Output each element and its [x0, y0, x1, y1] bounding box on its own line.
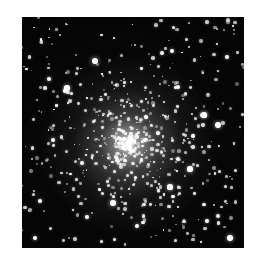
cluster-core-glow [22, 17, 244, 248]
star [68, 237, 69, 238]
star [193, 192, 195, 194]
star [182, 133, 185, 136]
star [79, 182, 82, 185]
star [191, 238, 194, 241]
star [118, 141, 121, 144]
star [54, 154, 56, 156]
star [108, 110, 110, 112]
star [94, 162, 98, 166]
star [95, 111, 97, 113]
star [32, 118, 35, 121]
star [94, 119, 97, 122]
star [233, 29, 234, 30]
star [117, 207, 120, 210]
star [178, 192, 181, 195]
star [68, 99, 72, 103]
star [69, 116, 71, 118]
star [174, 109, 177, 112]
star [131, 162, 133, 164]
star [150, 147, 154, 151]
star [103, 137, 106, 140]
star [151, 101, 154, 104]
star [50, 166, 52, 168]
star [120, 196, 122, 198]
star [123, 146, 125, 148]
star [227, 235, 233, 241]
star [162, 154, 165, 157]
star [154, 23, 158, 27]
star [224, 185, 227, 188]
star [150, 236, 152, 238]
star [51, 127, 55, 131]
star [49, 174, 53, 178]
star [176, 105, 179, 108]
star [36, 163, 38, 165]
star [101, 126, 104, 129]
star [208, 159, 210, 161]
star [98, 188, 100, 190]
star [167, 184, 172, 189]
star [162, 161, 164, 163]
star [59, 34, 61, 36]
star [182, 142, 184, 144]
star [149, 171, 150, 172]
star [99, 98, 102, 101]
star [96, 138, 98, 140]
star [28, 208, 32, 212]
star [167, 173, 170, 176]
star [214, 78, 217, 81]
star [124, 134, 126, 136]
star [104, 93, 106, 95]
star [55, 104, 58, 107]
star [231, 178, 233, 180]
star [148, 53, 150, 55]
star [118, 123, 121, 126]
star [215, 122, 221, 128]
star [38, 110, 40, 112]
star [98, 110, 101, 113]
star [206, 93, 210, 97]
star [142, 109, 145, 112]
star [106, 180, 109, 183]
star [171, 149, 175, 153]
star [212, 166, 216, 170]
star [168, 229, 171, 232]
star [164, 47, 167, 50]
star [182, 225, 186, 229]
star [175, 28, 178, 31]
star [229, 216, 233, 220]
star [236, 51, 239, 54]
star [212, 53, 216, 57]
star [182, 220, 186, 224]
star [72, 187, 75, 190]
star [149, 203, 152, 206]
star [187, 166, 192, 171]
star [113, 37, 115, 39]
star [73, 237, 77, 241]
star [156, 131, 160, 135]
star [111, 186, 114, 189]
star [128, 188, 130, 190]
star [140, 45, 143, 48]
star [76, 213, 79, 216]
star [31, 146, 34, 149]
star [217, 108, 219, 110]
star [216, 28, 218, 30]
star [144, 152, 145, 153]
star [40, 40, 43, 43]
cluster-image [22, 17, 244, 248]
star [40, 38, 42, 40]
star [141, 221, 144, 224]
star [22, 229, 23, 231]
star [201, 123, 204, 126]
star [123, 207, 127, 211]
star [33, 27, 34, 28]
star [223, 29, 225, 31]
star [145, 98, 147, 100]
star [28, 55, 31, 58]
star [31, 158, 33, 160]
star [141, 138, 142, 139]
star [222, 102, 224, 104]
star [186, 232, 189, 235]
star [101, 135, 102, 136]
